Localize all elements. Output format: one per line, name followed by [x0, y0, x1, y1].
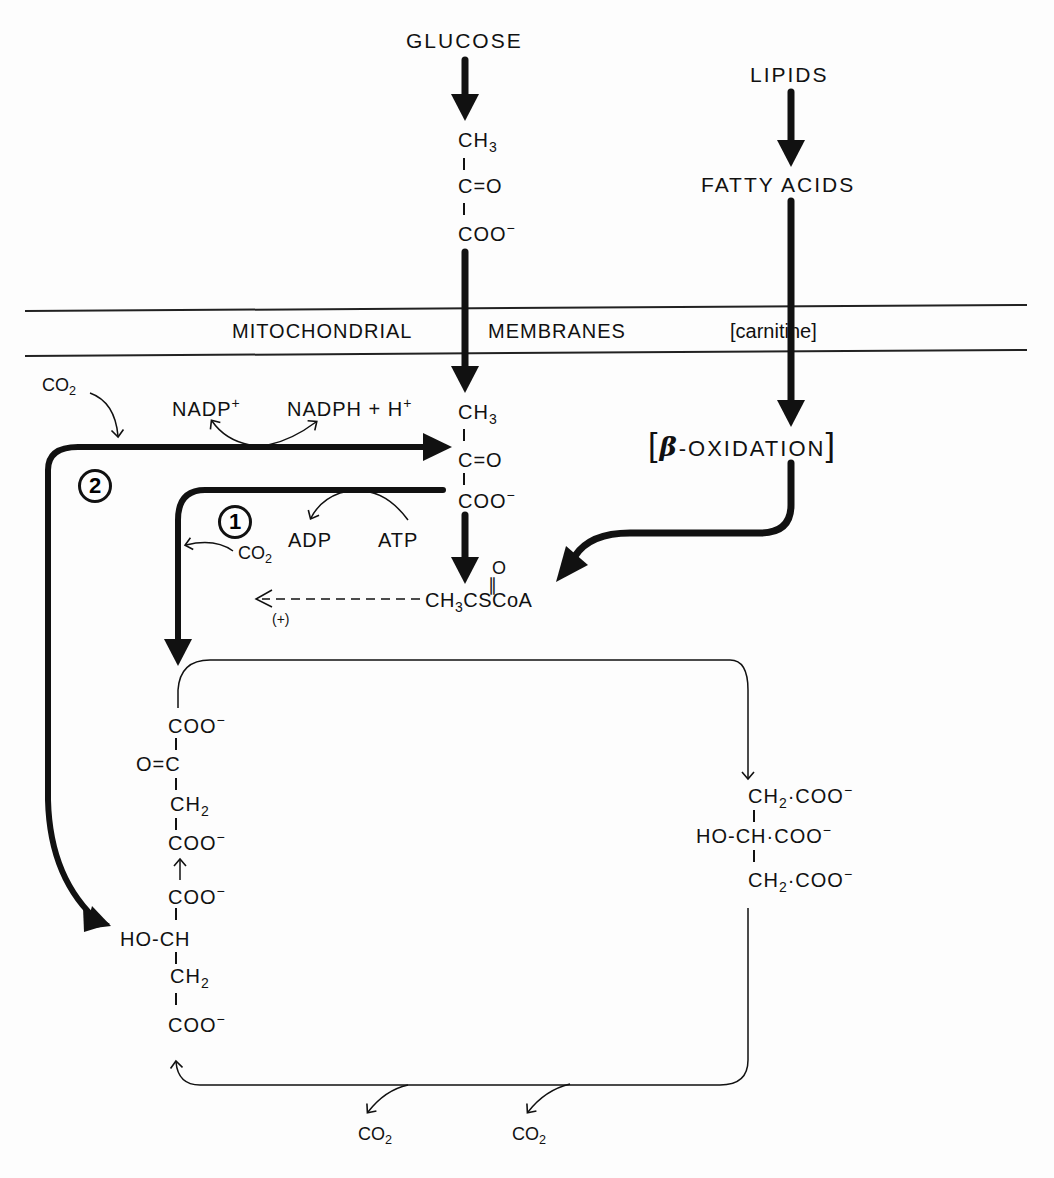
- nadp-label: NADP+: [172, 396, 241, 419]
- cycle-co2-right-label: CO2: [512, 1125, 546, 1147]
- atp-label: ATP: [378, 530, 418, 550]
- bond: [753, 810, 755, 822]
- carnitine-label: [carnitine]: [730, 321, 817, 341]
- co2-input-label: CO2: [42, 376, 76, 398]
- bond: [175, 952, 177, 964]
- beta-oxidation-label: [β-OXIDATION]: [648, 427, 837, 461]
- bond: [463, 429, 465, 441]
- beta-oxidation-to-acetyl-coa-arrow: [556, 463, 791, 582]
- bond: [175, 908, 177, 920]
- reaction-1-marker: 1: [218, 505, 252, 539]
- bond: [175, 778, 177, 790]
- nadph-label: NADPH + H+: [287, 396, 412, 419]
- glucose-label: GLUCOSE: [406, 30, 523, 51]
- fatty-acids-label: FATTY ACIDS: [701, 174, 855, 195]
- metabolic-pathway-diagram: GLUCOSE LIPIDS FATTY ACIDS CH3 C=O COO− …: [0, 0, 1054, 1178]
- pyruvate-transport-arrow: [451, 252, 479, 393]
- glucose-to-pyruvate-arrow: [451, 60, 479, 121]
- reaction-1-pyruvate-carboxylase-arrow: [164, 490, 443, 666]
- cycle-co2-left-label: CO2: [358, 1125, 392, 1147]
- adp-label: ADP: [288, 530, 332, 550]
- membranes-label: MEMBRANES: [488, 321, 626, 341]
- acetyl-coa-activation-dashed-arrow: [256, 590, 420, 607]
- bond: [463, 473, 465, 485]
- reaction-2-malic-enzyme-arrow: [48, 433, 452, 932]
- bond: [753, 850, 755, 862]
- lipids-to-fatty-acids-arrow: [777, 92, 805, 167]
- citric-acid-cycle-loop: [176, 660, 748, 1112]
- bond: [175, 818, 177, 830]
- pyruvate-to-acetyl-coa-arrow: [451, 515, 479, 584]
- co2-released-label: CO2: [238, 544, 272, 566]
- mitochondrial-label: MITOCHONDRIAL: [232, 321, 412, 341]
- bond: [463, 158, 465, 170]
- bond: [175, 738, 177, 750]
- reaction-2-marker: 2: [78, 469, 112, 503]
- bond: [463, 203, 465, 215]
- bond: [175, 993, 177, 1005]
- lipids-label: LIPIDS: [750, 64, 829, 85]
- fatty-acid-transport-arrow: [777, 201, 805, 427]
- acetyl-coa-label: CH3CSCoA: [425, 590, 532, 614]
- activation-plus-label: (+): [272, 612, 290, 626]
